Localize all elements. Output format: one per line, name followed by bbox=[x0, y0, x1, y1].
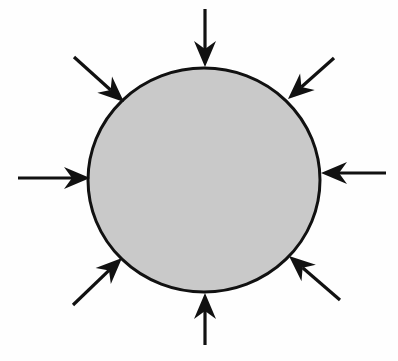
circle-body bbox=[88, 68, 320, 292]
pressure-diagram bbox=[0, 0, 398, 361]
figure-container: Uniform inward pressure on a circular bo… bbox=[0, 0, 398, 361]
